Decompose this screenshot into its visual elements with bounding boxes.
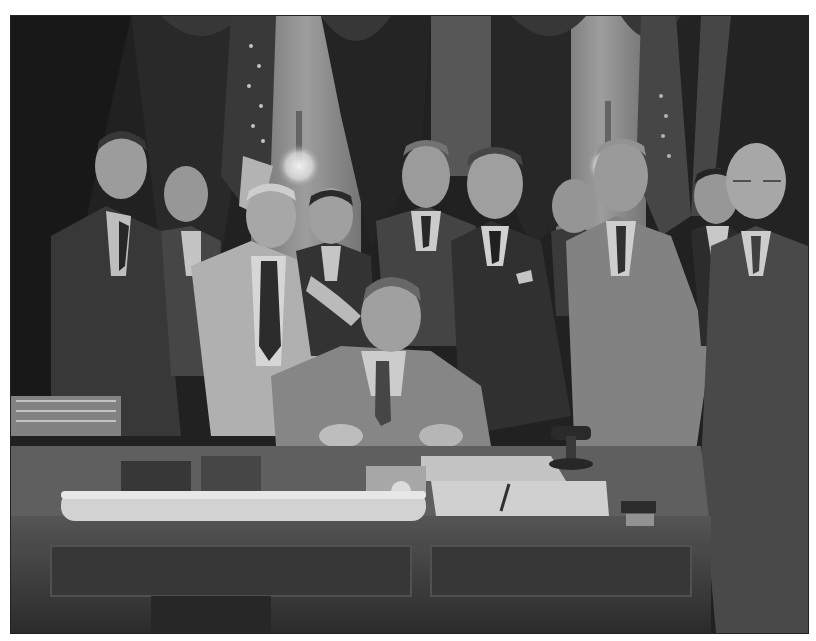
photograph <box>10 15 809 634</box>
photo-illustration <box>11 16 808 633</box>
